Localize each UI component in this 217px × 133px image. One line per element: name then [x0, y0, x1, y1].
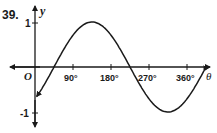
problem-number: 39. — [2, 8, 19, 22]
x-tick-90: 90° — [64, 73, 78, 83]
sine-graph: 39. 90° 180° 270° 360° 1 -1 y θ O — [0, 0, 217, 133]
x-tick-360: 360° — [176, 73, 195, 83]
x-tick-180: 180° — [100, 73, 119, 83]
y-tick-1: 1 — [25, 18, 31, 29]
origin-label: O — [24, 70, 32, 82]
y-tick-neg1: -1 — [20, 108, 29, 119]
x-tick-270: 270° — [138, 73, 157, 83]
x-axis-label: θ — [206, 70, 212, 82]
y-axis-label: y — [38, 4, 46, 18]
